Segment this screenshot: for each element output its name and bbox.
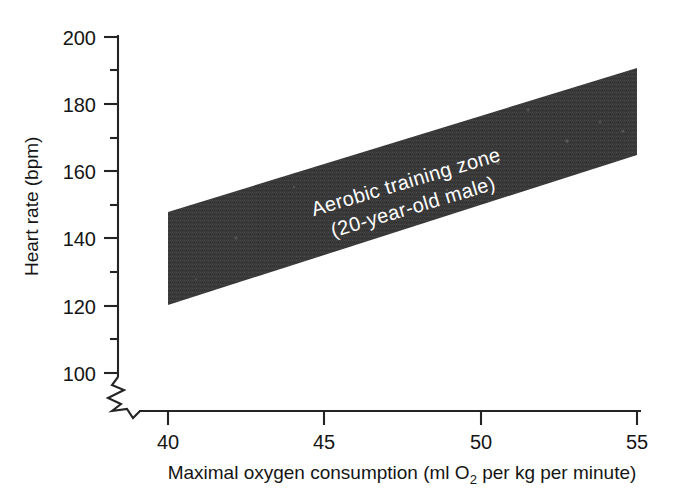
y-axis-title: Heart rate (bpm) [21,137,42,276]
x-tick-label-55: 55 [626,431,648,453]
y-tick-label-120: 120 [63,296,96,318]
y-tick-label-180: 180 [63,94,96,116]
x-tick-label-45: 45 [313,431,335,453]
y-tick-label-200: 200 [63,27,96,49]
y-tick-label-100: 100 [63,363,96,385]
x-axis-title-subscript: 2 [470,472,477,487]
x-tick-label-50: 50 [470,431,492,453]
chart-svg: Aerobic training zone (20-year-old male) [0,0,678,500]
y-tick-label-140: 140 [63,228,96,250]
x-tick-label-40: 40 [157,431,179,453]
x-axis-title-before: Maximal oxygen consumption (ml O [168,462,470,483]
x-axis-title-after: per kg per minute) [477,462,636,483]
chart-figure: Aerobic training zone (20-year-old male) [0,0,678,500]
y-tick-label-160: 160 [63,161,96,183]
